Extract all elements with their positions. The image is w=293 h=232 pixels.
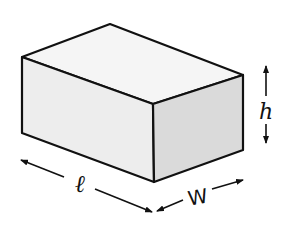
- width-label: W: [186, 183, 210, 210]
- width-dimension: W: [157, 180, 243, 211]
- height-dimension: h: [259, 66, 273, 143]
- width-arrow-left: [157, 200, 183, 211]
- length-arrow-left: [21, 160, 64, 177]
- height-label: h: [259, 99, 273, 124]
- width-arrow-right: [212, 180, 243, 189]
- length-label: ℓ: [75, 170, 85, 198]
- box-diagram: ℓ W h: [0, 0, 293, 232]
- length-arrow-right: [95, 189, 152, 212]
